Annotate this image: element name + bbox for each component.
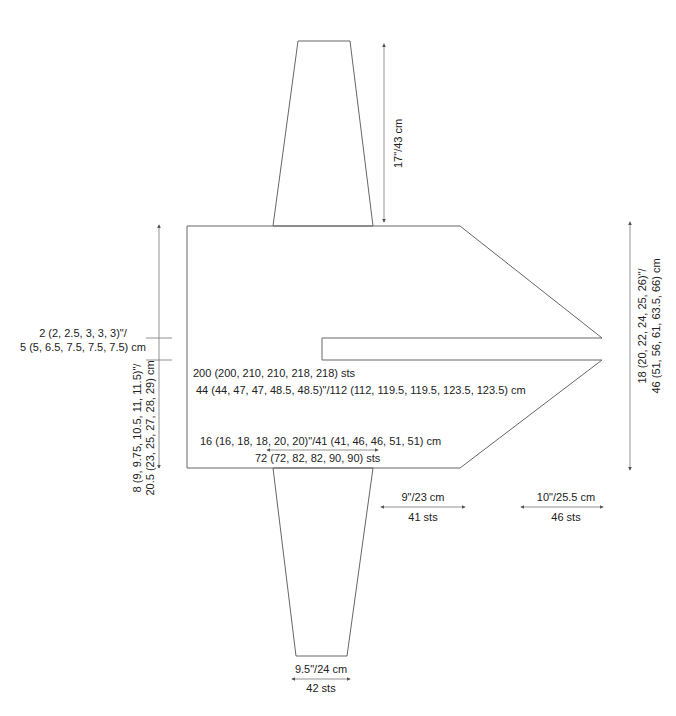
body-outline [187, 226, 602, 468]
cuff-width-label: 9.5"/24 cm [281, 663, 361, 676]
upper-arm-width-label: 16 (16, 18, 18, 20, 20)"/41 (41, 46, 46,… [200, 435, 441, 448]
body-sts-label: 200 (200, 210, 210, 218, 218) sts [193, 367, 355, 380]
sleeve-length-label: 17"/43 cm [392, 119, 405, 168]
point-section-width-label: 10"/25.5 cm [521, 491, 611, 504]
bottom-sleeve-outline [273, 468, 373, 656]
total-height-line1: 18 (20, 22, 24, 25, 26)"/ [636, 226, 649, 426]
upper-arm-sts-label: 72 (72, 82, 82, 90, 90) sts [255, 452, 380, 465]
neck-depth-line2: 5 (5, 6.5, 7.5, 7.5, 7.5) cm [8, 341, 158, 354]
front-section-width-label: 9"/23 cm [381, 491, 465, 504]
neck-depth-line1: 2 (2, 2.5, 3, 3, 3)"/ [8, 327, 158, 340]
body-height-line1: 8 (9, 9.75, 10.5, 11, 11.5)"/ [131, 358, 144, 498]
front-section-sts-label: 41 sts [381, 511, 465, 524]
body-height-line2: 20.5 (23, 25, 27, 28, 29) cm [144, 358, 157, 498]
top-sleeve-outline [273, 41, 373, 226]
cuff-sts-label: 42 sts [281, 682, 361, 695]
point-section-sts-label: 46 sts [521, 511, 611, 524]
total-height-line2: 46 (51, 56, 61, 63.5, 66) cm [650, 226, 663, 426]
garment-schematic [0, 0, 676, 716]
body-width-label: 44 (44, 47, 47, 48.5, 48.5)"/112 (112, 1… [196, 384, 526, 397]
